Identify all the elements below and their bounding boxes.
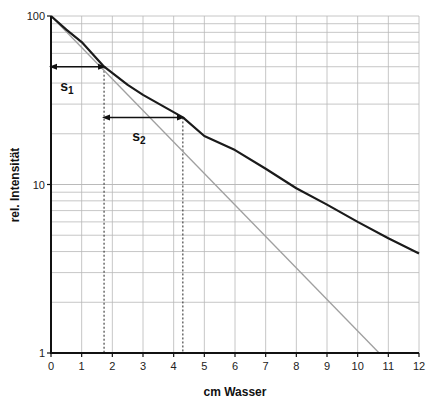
grid-lines bbox=[51, 16, 419, 353]
x-tick-label: 7 bbox=[263, 360, 269, 372]
intensity-chart: s1s2 0123456789101112 110100 cm Wasser r… bbox=[0, 0, 437, 406]
y-tick-label: 100 bbox=[27, 10, 45, 22]
x-tick-label: 4 bbox=[171, 360, 177, 372]
x-axis-title: cm Wasser bbox=[204, 385, 267, 399]
x-tick-label: 1 bbox=[79, 360, 85, 372]
x-tick-label: 11 bbox=[383, 360, 394, 372]
y-tick-label: 1 bbox=[39, 347, 45, 359]
half-value-label-s1: s1 bbox=[60, 78, 74, 96]
x-axis-ticks: 0123456789101112 bbox=[48, 353, 425, 372]
x-tick-label: 5 bbox=[201, 360, 207, 372]
x-tick-label: 3 bbox=[140, 360, 146, 372]
x-tick-label: 6 bbox=[232, 360, 238, 372]
x-tick-label: 0 bbox=[48, 360, 54, 372]
y-axis-ticks: 110100 bbox=[27, 10, 51, 359]
x-tick-label: 10 bbox=[352, 360, 364, 372]
half-value-label-s2: s2 bbox=[132, 128, 146, 146]
x-tick-label: 12 bbox=[413, 360, 425, 372]
x-tick-label: 9 bbox=[324, 360, 330, 372]
y-axis-title: rel. Intensität bbox=[8, 148, 22, 223]
x-tick-label: 2 bbox=[109, 360, 115, 372]
y-tick-label: 10 bbox=[33, 179, 45, 191]
x-tick-label: 8 bbox=[293, 360, 299, 372]
